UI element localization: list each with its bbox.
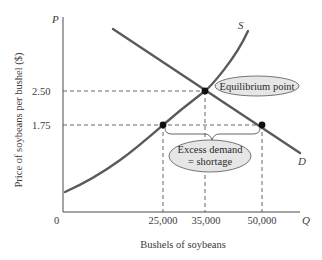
x-axis-symbol: Q <box>302 214 310 226</box>
origin-label: 0 <box>54 215 59 226</box>
y-axis-title: Price of soybeans per bushel ($) <box>13 52 25 188</box>
y-tick-2-50: 2.50 <box>32 86 50 97</box>
equilibrium-callout: Equilibrium point <box>215 76 299 96</box>
shortage-brace <box>165 128 260 140</box>
shortage-callout: Excess demand = shortage <box>169 140 251 172</box>
y-axis-symbol: P <box>51 13 59 25</box>
supply-label: S <box>238 19 244 31</box>
equilibrium-dot <box>202 88 209 95</box>
x-axis-title: Bushels of soybeans <box>140 239 226 250</box>
demand-label: D <box>297 155 306 167</box>
shortage-label-line2: = shortage <box>188 156 232 167</box>
x-tick-35000: 35,000 <box>192 215 221 226</box>
x-tick-50000: 50,000 <box>248 215 277 226</box>
y-tick-1-75: 1.75 <box>32 120 50 131</box>
equilibrium-label: Equilibrium point <box>220 81 295 92</box>
quantity-demanded-dot <box>259 122 266 129</box>
axes <box>63 17 300 212</box>
supply-demand-chart: P Q 0 2.50 1.75 25,000 35,000 50,000 Bus… <box>0 0 322 260</box>
x-tick-25000: 25,000 <box>149 215 178 226</box>
quantity-supplied-dot <box>160 122 167 129</box>
shortage-label-line1: Excess demand <box>177 144 243 155</box>
